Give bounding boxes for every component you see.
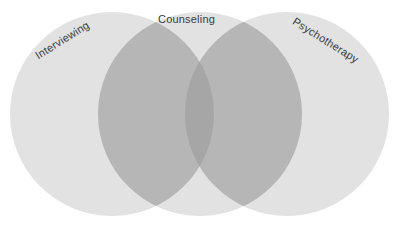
- venn-circles-canvas: [0, 0, 400, 228]
- venn-diagram: Interviewing Counseling Psychotherapy: [0, 0, 400, 228]
